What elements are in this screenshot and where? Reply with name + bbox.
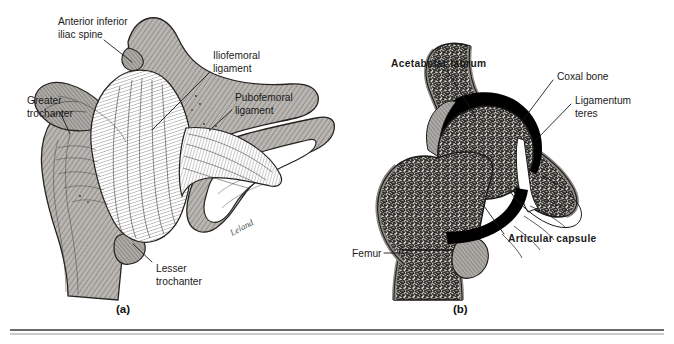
label-greater-trochanter-line2: trochanter — [27, 108, 73, 119]
label-femur: Femur — [352, 248, 382, 259]
label-iliofemoral-ligament-line1: Iliofemoral — [213, 50, 260, 61]
label-ligamentum-teres-line2: teres — [575, 108, 598, 119]
label-ligamentum-teres-line1: Ligamentum — [575, 95, 631, 106]
label-pubofemoral-ligament-line2: ligament — [235, 105, 274, 116]
label-coxal-bone: Coxal bone — [557, 71, 609, 82]
label-articular-capsule: Articular capsule — [508, 233, 597, 244]
label-lesser-trochanter-line2: trochanter — [156, 276, 202, 287]
label-greater-trochanter-line1: Greater — [27, 95, 62, 106]
label-lesser-trochanter-line1: Lesser — [156, 263, 187, 274]
panel-a-id: (a) — [116, 303, 130, 315]
label-acetabular-labrum: Acetabular labrum — [391, 58, 486, 69]
label-iliofemoral-ligament-line2: ligament — [213, 63, 252, 74]
panel-b-id: (b) — [453, 303, 468, 315]
label-anterior-inferior-iliac-spine-line2: iliac spine — [58, 29, 103, 40]
label-pubofemoral-ligament-line1: Pubofemoral — [235, 92, 293, 103]
label-anterior-inferior-iliac-spine-line1: Anterior inferior — [58, 16, 128, 27]
hip-joint-figure: Leland Anterior inferior iliac spine Gre… — [0, 0, 674, 344]
